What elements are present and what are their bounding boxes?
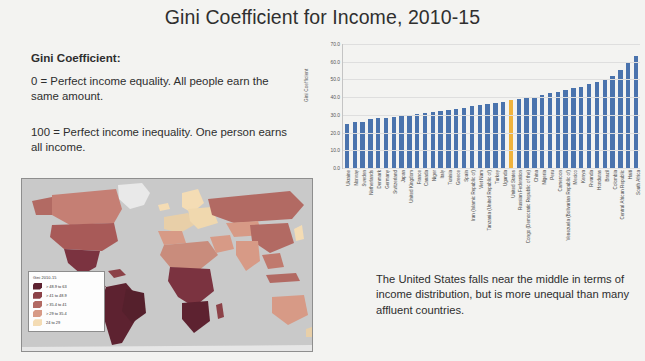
x-axis-label-cell: Spain xyxy=(460,170,468,258)
x-axis-label-cell: Switzerland xyxy=(389,170,397,258)
x-axis-label-cell: Mexico xyxy=(569,170,577,258)
bar[interactable] xyxy=(462,108,466,168)
bar[interactable] xyxy=(571,88,575,168)
bar[interactable] xyxy=(423,113,427,168)
map-legend-item: > 41 to 48.9 xyxy=(33,292,99,299)
legend-swatch xyxy=(33,292,42,299)
x-axis-label-cell: Greece xyxy=(452,170,460,258)
bar[interactable] xyxy=(353,122,357,168)
plot-area xyxy=(342,44,640,169)
x-axis-label-cell: Congo (Democratic Republic of the) xyxy=(522,170,530,258)
bar[interactable] xyxy=(509,100,513,168)
x-axis-label-cell: France xyxy=(413,170,421,258)
x-axis-label-cell: Peru xyxy=(546,170,554,258)
gridline xyxy=(343,44,640,45)
x-axis-labels: UkraineNorwaySwedenNetherlandsDenmarkGer… xyxy=(342,170,640,258)
x-axis-label-cell: Cameroon xyxy=(554,170,562,258)
bar[interactable] xyxy=(438,111,442,168)
bar[interactable] xyxy=(548,93,552,168)
chart-caption: The United States falls near the middle … xyxy=(376,272,634,318)
gini-definition-paragraph-2: 100 = Perfect income inequality. One per… xyxy=(31,125,299,155)
bar[interactable] xyxy=(392,117,396,168)
x-axis-label-cell: Netherlands xyxy=(366,170,374,258)
world-choropleth-map: Gini 2010-15 > 48.9 to 63 > 41 to 48.9 >… xyxy=(21,178,313,352)
bar[interactable] xyxy=(446,110,450,168)
bar[interactable] xyxy=(360,122,364,168)
x-axis-label-cell: Turkey xyxy=(491,170,499,258)
bar[interactable] xyxy=(415,114,419,168)
gridline xyxy=(343,97,640,98)
y-axis-ticks: 0.010.020.030.040.050.060.070.0 xyxy=(314,44,340,168)
bar[interactable] xyxy=(407,115,411,168)
map-legend-title: Gini 2010-15 xyxy=(33,275,99,280)
bar[interactable] xyxy=(493,103,497,168)
bar[interactable] xyxy=(563,90,567,168)
bar[interactable] xyxy=(399,116,403,168)
bar[interactable] xyxy=(556,92,560,168)
bar[interactable] xyxy=(431,112,435,168)
map-legend-item: > 29 to 35.4 xyxy=(33,310,99,317)
x-axis-label-cell: Haiti xyxy=(624,170,632,258)
x-axis-label-cell: Russian Federation xyxy=(515,170,523,258)
bar[interactable] xyxy=(579,87,583,168)
x-axis-label-cell: Tanzania (United Republic of) xyxy=(483,170,491,258)
y-axis-title: Gini Coefficient xyxy=(304,69,309,102)
x-axis-label-cell: Japan xyxy=(397,170,405,258)
y-axis-tick-label: 50.0 xyxy=(330,77,340,82)
y-axis-tick-label: 70.0 xyxy=(330,42,340,47)
x-axis-label-cell: Honduras xyxy=(593,170,601,258)
x-axis-label-cell: Nigeria xyxy=(538,170,546,258)
gini-bar-chart: Gini Coefficient 0.010.020.030.040.050.0… xyxy=(306,44,642,259)
bar[interactable] xyxy=(345,124,349,168)
bar[interactable] xyxy=(454,109,458,168)
x-axis-label-cell: Central African Republic xyxy=(617,170,625,258)
legend-swatch xyxy=(33,310,42,317)
y-axis-tick-label: 20.0 xyxy=(330,130,340,135)
x-axis-label-cell: South Africa xyxy=(632,170,640,258)
bar[interactable] xyxy=(384,118,388,168)
x-axis-label-cell: Denmark xyxy=(373,170,381,258)
legend-label: > 35.4 to 41 xyxy=(46,302,67,307)
x-axis-label-cell: Viet Nam xyxy=(475,170,483,258)
y-axis-tick-label: 40.0 xyxy=(330,95,340,100)
gridline xyxy=(343,115,640,116)
y-axis-tick-label: 30.0 xyxy=(330,112,340,117)
x-axis-label-cell: Colombia xyxy=(609,170,617,258)
x-axis-label-cell: United States xyxy=(507,170,515,258)
bar[interactable] xyxy=(485,104,489,168)
legend-swatch xyxy=(33,283,42,290)
x-axis-label-cell: Kenya xyxy=(577,170,585,258)
gridline xyxy=(343,168,640,169)
x-axis-label-cell: Tunisia xyxy=(444,170,452,258)
legend-label: > 48.9 to 63 xyxy=(46,284,67,289)
bar[interactable] xyxy=(618,70,622,168)
legend-swatch xyxy=(33,301,42,308)
gini-definition-heading: Gini Coefficient: xyxy=(31,50,299,65)
gridline xyxy=(343,150,640,151)
legend-swatch xyxy=(33,319,42,326)
bar[interactable] xyxy=(610,76,614,168)
x-axis-label-cell: Brazil xyxy=(601,170,609,258)
x-axis-label-cell: China xyxy=(530,170,538,258)
bar[interactable] xyxy=(595,82,599,168)
x-axis-label-cell: Niger xyxy=(428,170,436,258)
bar[interactable] xyxy=(368,119,372,168)
bar[interactable] xyxy=(501,102,505,168)
x-axis-label-cell: Canada xyxy=(420,170,428,258)
x-axis-label-cell: Italy xyxy=(436,170,444,258)
legend-label: > 41 to 48.9 xyxy=(46,293,67,298)
map-legend: Gini 2010-15 > 48.9 to 63 > 41 to 48.9 >… xyxy=(28,271,105,332)
y-axis-tick-label: 0.0 xyxy=(333,166,340,171)
page-title: Gini Coefficient for Income, 2010-15 xyxy=(0,6,645,29)
gridline xyxy=(343,133,640,134)
x-axis-label-cell: Norway xyxy=(350,170,358,258)
bar[interactable] xyxy=(603,79,607,168)
x-axis-label-cell: Ukraine xyxy=(342,170,350,258)
x-axis-label-cell: Germany xyxy=(381,170,389,258)
y-axis-tick-label: 60.0 xyxy=(330,59,340,64)
gini-definition-paragraph-1: 0 = Perfect income equality. All people … xyxy=(31,74,299,104)
x-axis-label-cell: Sweden xyxy=(358,170,366,258)
bar[interactable] xyxy=(376,118,380,168)
y-axis-tick-label: 10.0 xyxy=(330,148,340,153)
map-legend-item: > 35.4 to 41 xyxy=(33,301,99,308)
